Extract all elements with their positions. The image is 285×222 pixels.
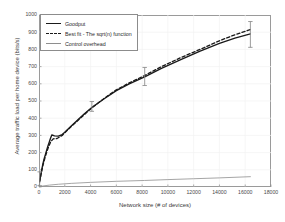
legend: Goodput Best fit - The sqrt(n) function …	[40, 14, 138, 51]
legend-item-best-fit: Best fit - The sqrt(n) function	[45, 29, 137, 38]
legend-key-solid-icon	[45, 20, 62, 28]
legend-label: Control overhead	[65, 41, 106, 47]
series-line-goodput	[40, 34, 251, 181]
legend-item-goodput: Goodput	[45, 19, 137, 28]
legend-item-control-overhead: Control overhead	[45, 39, 137, 48]
series-line-best-fit-the-sqrt-n-function	[40, 30, 251, 182]
figure: Average traffic load per home device (bi…	[0, 0, 285, 222]
legend-label: Best fit - The sqrt(n) function	[65, 31, 132, 37]
series-line-control-overhead	[40, 177, 251, 187]
legend-key-thin-icon	[45, 40, 62, 48]
legend-key-dashed-icon	[45, 30, 62, 38]
legend-label: Goodput	[65, 21, 85, 27]
